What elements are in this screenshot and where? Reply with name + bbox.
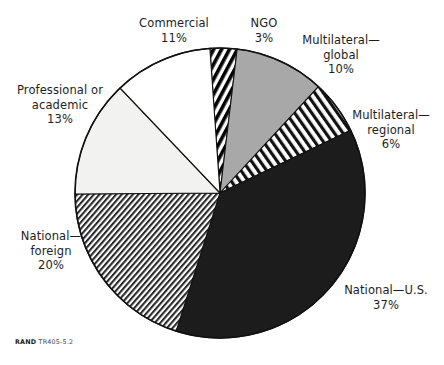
pie-label-professional-academic: Professional or academic 13% xyxy=(8,83,112,127)
figure-credit-id: TR405-5.2 xyxy=(39,338,74,346)
figure-credit-brand: RAND xyxy=(15,338,36,346)
figure-credit: RAND TR405-5.2 xyxy=(15,338,73,346)
pie-slices xyxy=(75,48,365,338)
pie-label-commercial: Commercial 11% xyxy=(122,16,226,45)
pie-label-multilateral-regional: Multilateral— regional 6% xyxy=(342,108,440,152)
pie-label-multilateral-global: Multilateral— global 10% xyxy=(286,33,396,77)
pie-label-national-foreign: National— foreign 20% xyxy=(2,229,100,273)
pie-chart-figure: Commercial 11% NGO 3% Multilateral— glob… xyxy=(0,0,444,365)
pie-label-national-us: National—U.S. 37% xyxy=(330,283,442,312)
